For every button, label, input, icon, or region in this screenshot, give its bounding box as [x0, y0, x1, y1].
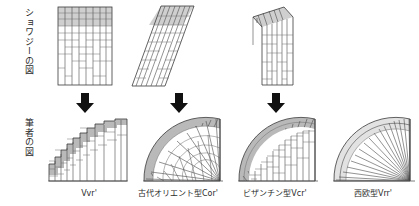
caption-vcr: ビザンチン型Vcr'	[230, 186, 320, 202]
top-diagram-vvr	[57, 6, 113, 86]
row-label-author: 筆者の図	[8, 118, 34, 156]
bottom-diagram-cor	[142, 117, 224, 183]
caption-cor: 古代オリエント型Cor'	[130, 186, 226, 202]
down-arrow-vcr	[265, 92, 287, 114]
bottom-diagram-vrr	[332, 117, 416, 183]
down-arrow-cor	[168, 92, 190, 114]
row-label-choisy: ショワジーの図	[8, 8, 34, 75]
bottom-diagram-vvr	[47, 117, 129, 183]
down-arrow-vvr	[74, 92, 96, 114]
figure-root: ショワジーの図 筆者の図	[0, 0, 419, 206]
top-diagram-vcr	[231, 5, 295, 87]
top-diagram-cor	[130, 4, 196, 88]
bottom-diagram-vcr	[237, 117, 319, 183]
caption-vvr: Vvr'	[48, 186, 130, 202]
caption-vrr: 西欧型Vrr'	[330, 186, 416, 202]
